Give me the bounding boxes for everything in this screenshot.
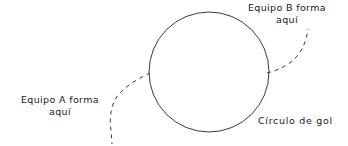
label-team-b: Equipo B forma aquí — [238, 2, 336, 26]
team-a-dashed-path — [110, 73, 150, 144]
label-team-a-line2: aquí — [12, 106, 108, 118]
label-goal-circle: Círculo de gol — [258, 115, 342, 127]
team-b-dashed-path — [267, 29, 308, 73]
label-team-a: Equipo A forma aquí — [12, 94, 108, 118]
label-team-a-line1: Equipo A forma — [12, 94, 108, 106]
label-team-b-line1: Equipo B forma — [238, 2, 336, 14]
label-goal-circle-text: Círculo de gol — [258, 115, 342, 127]
label-team-b-line2: aquí — [238, 14, 336, 26]
diagram-canvas: Equipo B forma aquí Equipo A forma aquí … — [0, 0, 348, 146]
goal-circle — [149, 12, 269, 132]
